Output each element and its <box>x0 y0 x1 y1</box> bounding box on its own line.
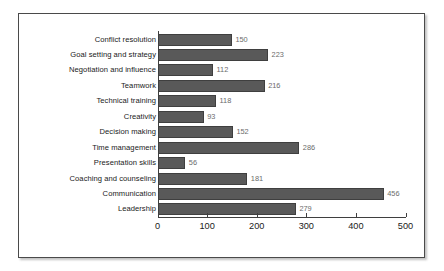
category-label: Leadership <box>0 203 156 215</box>
bar-track: 223 <box>158 49 425 61</box>
category-label: Conflict resolution <box>0 34 156 46</box>
bar-track: 279 <box>158 203 425 215</box>
bar-value-label: 216 <box>265 80 281 92</box>
bar-track: 216 <box>158 80 425 92</box>
bar-row: Creativity93 <box>19 111 424 123</box>
bar <box>158 188 384 200</box>
category-label: Communication <box>0 188 156 200</box>
bar-row: Technical training118 <box>19 95 424 107</box>
bar-row: Time management286 <box>19 142 424 154</box>
bar-track: 112 <box>158 64 425 76</box>
bar-value-label: 93 <box>204 111 216 123</box>
bar <box>158 80 265 92</box>
bar-row: Communication456 <box>19 188 424 200</box>
bar-track: 118 <box>158 95 425 107</box>
x-axis-tick <box>406 213 407 217</box>
bar-row: Negotiation and influence112 <box>19 64 424 76</box>
bar <box>158 126 233 138</box>
bar <box>158 64 214 76</box>
bar <box>158 111 204 123</box>
category-label: Coaching and counseling <box>0 173 156 185</box>
bar-value-label: 279 <box>296 203 312 215</box>
bar-value-label: 152 <box>233 126 249 138</box>
bar <box>158 49 269 61</box>
bar-track: 93 <box>158 111 425 123</box>
category-label: Negotiation and influence <box>0 64 156 76</box>
bar <box>158 203 296 215</box>
x-axis-tick-label: 100 <box>199 221 214 231</box>
x-axis-tick <box>257 213 258 217</box>
bar-track: 56 <box>158 157 425 169</box>
category-label: Decision making <box>0 126 156 138</box>
bar-value-label: 150 <box>232 34 248 46</box>
x-axis-tick-label: 200 <box>249 221 264 231</box>
x-axis-tick <box>356 213 357 217</box>
bar-value-label: 456 <box>384 188 400 200</box>
bar-track: 286 <box>158 142 425 154</box>
x-axis-tick-label: 400 <box>348 221 363 231</box>
bar-value-label: 223 <box>268 49 284 61</box>
bar <box>158 173 248 185</box>
bar-value-label: 181 <box>247 173 263 185</box>
category-label: Time management <box>0 142 156 154</box>
bar-row: Leadership279 <box>19 203 424 215</box>
x-axis-tick <box>207 213 208 217</box>
bar-track: 181 <box>158 173 425 185</box>
x-axis-tick-label: 300 <box>299 221 314 231</box>
category-label: Creativity <box>0 111 156 123</box>
bar-track: 150 <box>158 34 425 46</box>
bar-track: 456 <box>158 188 425 200</box>
bar <box>158 95 217 107</box>
bar-value-label: 286 <box>299 142 315 154</box>
bar-track: 152 <box>158 126 425 138</box>
category-label: Presentation skills <box>0 157 156 169</box>
chart-panel: Conflict resolution150Goal setting and s… <box>18 13 425 258</box>
bar-value-label: 118 <box>216 95 231 107</box>
category-label: Teamwork <box>0 80 156 92</box>
plot-area: Conflict resolution150Goal setting and s… <box>19 14 424 257</box>
bar-row: Decision making152 <box>19 126 424 138</box>
x-axis-tick <box>306 213 307 217</box>
bar <box>158 34 232 46</box>
bar-row: Presentation skills56 <box>19 157 424 169</box>
bar-row: Conflict resolution150 <box>19 34 424 46</box>
x-axis-tick-label: 500 <box>398 221 413 231</box>
x-axis-tick-label: 0 <box>155 221 160 231</box>
bar <box>158 142 300 154</box>
bar-row: Goal setting and strategy223 <box>19 49 424 61</box>
bar-value-label: 112 <box>213 64 228 76</box>
bar-row: Coaching and counseling181 <box>19 173 424 185</box>
bar-row: Teamwork216 <box>19 80 424 92</box>
bar <box>158 157 186 169</box>
category-label: Technical training <box>0 95 156 107</box>
x-axis-line <box>158 217 406 218</box>
bar-value-label: 56 <box>185 157 197 169</box>
category-label: Goal setting and strategy <box>0 49 156 61</box>
